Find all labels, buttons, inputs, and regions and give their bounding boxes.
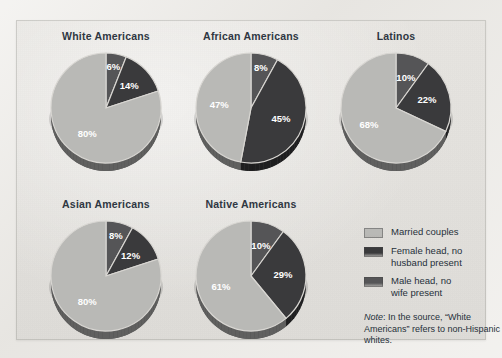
pie-graphic: 10%22%68% [316, 46, 476, 186]
legend-item-male-head: Male head, nowife present [364, 275, 502, 298]
legend-label-married: Married couples [391, 226, 459, 238]
pie-rim-segment [106, 163, 110, 171]
pie-rim-segment [400, 162, 404, 170]
pie-chart-title: White Americans [26, 30, 186, 42]
pie-rim-segment [247, 331, 251, 339]
pie-slice-label: 29% [273, 269, 293, 280]
pie-slice-label: 45% [272, 113, 292, 124]
pie-slice-label: 47% [210, 99, 230, 110]
pie-chart-african-americans: African Americans8%45%47% [171, 30, 331, 190]
legend-item-married: Married couples [364, 226, 502, 238]
pie-rim-segment [397, 163, 401, 171]
legend-swatch-female-head [364, 247, 383, 257]
pie-chart-title: Asian Americans [26, 198, 186, 210]
figure-canvas: White Americans6%14%80%African Americans… [0, 0, 502, 358]
pie-chart-title: African Americans [171, 30, 331, 42]
pie-rim-segment [110, 162, 114, 170]
pie-rim-segment [110, 330, 114, 338]
pie-rim-segment [244, 163, 248, 171]
pie-rim-segment [385, 162, 389, 171]
pie-chart-title: Native Americans [171, 198, 331, 210]
pie-rim-segment [114, 162, 118, 171]
pie-chart-asian-americans: Asian Americans8%12%80% [26, 198, 186, 358]
pie-slice-label: 68% [360, 119, 380, 130]
note-text: : In the source, “White Americans” refer… [364, 312, 500, 345]
pie-chart-native-americans: Native Americans10%29%61% [171, 198, 331, 358]
pie-slice-label: 22% [417, 94, 437, 105]
pie-slice-label: 10% [396, 72, 416, 83]
legend-label-male-head: Male head, nowife present [391, 275, 451, 298]
legend: Married couples Female head, nohusband p… [364, 226, 502, 305]
pie-rim-segment [251, 331, 255, 339]
pie-rim-segment [243, 330, 247, 338]
pie-rim-segment [255, 331, 259, 339]
pie-slice-label: 61% [211, 281, 231, 292]
legend-label-female-head: Female head, nohusband present [391, 245, 462, 268]
pie-slice-label: 10% [251, 240, 271, 251]
pie-slice-label: 12% [121, 250, 141, 261]
legend-swatch-male-head [364, 277, 383, 287]
pie-slice-label: 80% [78, 128, 98, 139]
pie-rim-segment [258, 330, 262, 339]
pie-graphic: 8%12%80% [26, 214, 186, 354]
pie-slice-label: 8% [109, 230, 123, 241]
pie-slice-label: 80% [78, 296, 98, 307]
legend-swatch-married [364, 228, 383, 238]
pie-graphic: 10%29%61% [171, 214, 331, 354]
pie-graphic: 8%45%47% [171, 46, 331, 186]
pie-rim-segment [248, 163, 252, 171]
figure-panel: White Americans6%14%80%African Americans… [16, 20, 486, 340]
pie-rim-segment [114, 330, 118, 339]
note-prefix: Note [364, 312, 383, 322]
pie-rim-segment [102, 163, 106, 171]
pie-chart-white-americans: White Americans6%14%80% [26, 30, 186, 190]
pie-graphic: 6%14%80% [26, 46, 186, 186]
source-note: Note: In the source, “White Americans” r… [364, 312, 502, 347]
pie-slice-label: 14% [120, 80, 140, 91]
pie-slice-label: 6% [107, 61, 121, 72]
pie-rim-segment [239, 330, 243, 339]
pie-chart-latinos: Latinos10%22%68% [316, 30, 476, 190]
pie-rim-segment [252, 163, 256, 171]
pie-rim-segment [102, 331, 106, 339]
pie-rim-segment [98, 162, 102, 170]
legend-item-female-head: Female head, nohusband present [364, 245, 502, 268]
pie-rim-segment [106, 331, 110, 339]
pie-rim-segment [393, 163, 397, 171]
pie-rim-segment [256, 162, 260, 170]
pie-rim-segment [98, 330, 102, 338]
pie-rim-segment [389, 163, 393, 171]
pie-slice-label: 8% [254, 62, 268, 73]
pie-rim-segment [241, 162, 245, 171]
pie-chart-title: Latinos [316, 30, 476, 42]
